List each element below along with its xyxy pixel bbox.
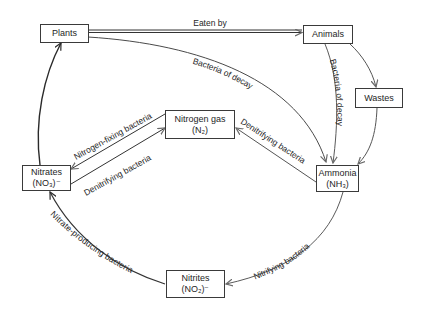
edge-animals-to-wastes [350, 44, 376, 87]
edge-label-denitrifying-ammonia: Denitrifying bacteria [239, 116, 308, 165]
node-animals-label: Animals [312, 29, 344, 40]
nitrogen-cycle-diagram: Eaten by Bacteria of decay Bacteria of d… [0, 0, 422, 316]
node-plants-label: Plants [52, 28, 77, 39]
edge-label-nitrate-producing: Nitrate-producing bacteria [49, 209, 135, 275]
edge-ammonia-to-nitrogen-gas: Denitrifying bacteria [236, 116, 316, 182]
node-ammonia-label: Ammonia [318, 168, 356, 179]
edge-plants-to-ammonia: Bacteria of decay [88, 37, 326, 162]
edge-label-eaten-by: Eaten by [193, 18, 227, 28]
node-nitrites: Nitrites (NO₂)⁻ [166, 270, 225, 298]
edge-label-denitrifying-nitrates: Denitrifying bacteria [82, 152, 153, 197]
node-nitrites-label: Nitrites [181, 273, 209, 284]
node-ammonia: Ammonia (NH₃) [316, 165, 359, 192]
node-nitrates: Nitrates (NO₃)⁻ [22, 165, 71, 191]
node-nitrates-formula: (NO₃)⁻ [32, 178, 60, 189]
node-nitrogen-gas-label: Nitrogen gas [174, 114, 225, 125]
edge-animals-to-ammonia: Bacteria of decay [325, 44, 345, 163]
node-wastes: Wastes [355, 88, 403, 108]
edge-ammonia-to-nitrites: Nitrifying bacteria [226, 192, 343, 284]
node-plants: Plants [40, 24, 89, 43]
edge-wastes-to-ammonia [358, 108, 377, 164]
node-animals: Animals [303, 25, 353, 44]
node-wastes-label: Wastes [364, 93, 394, 104]
edge-label-bacteria-of-decay-plants: Bacteria of decay [192, 56, 256, 91]
edge-plants-to-animals: Eaten by [88, 18, 302, 33]
edge-label-nitrifying: Nitrifying bacteria [252, 241, 311, 282]
node-ammonia-formula: (NH₃) [326, 179, 349, 190]
edge-label-bacteria-of-decay-animals: Bacteria of decay [328, 58, 346, 127]
node-nitrogen-gas: Nitrogen gas (N₂) [165, 110, 235, 139]
node-nitrogen-gas-formula: (N₂) [192, 125, 208, 136]
edge-nitrates-to-plants [38, 43, 61, 165]
edge-nitrites-to-nitrates: Nitrate-producing bacteria [49, 192, 165, 284]
node-nitrites-formula: (NO₂)⁻ [182, 284, 210, 295]
edge-label-nitrogen-fixing: Nitrogen-fixing bacteria [72, 110, 154, 161]
edges-layer: Eaten by Bacteria of decay Bacteria of d… [0, 0, 422, 316]
node-nitrates-label: Nitrates [31, 167, 62, 178]
